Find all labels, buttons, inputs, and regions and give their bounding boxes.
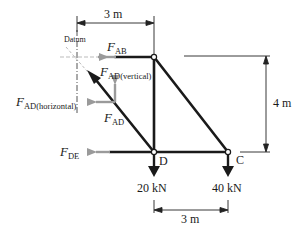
f-ab-sub: AB [115, 46, 127, 56]
f-ab-main: F [107, 39, 115, 54]
datum-label: Datum [64, 36, 86, 44]
node-c-label: C [236, 154, 244, 166]
f-de-main: F [60, 144, 68, 159]
f-ad-vertical-main: F [100, 64, 108, 79]
f-de-sub: DE [68, 151, 79, 161]
f-ab-label: FAB [107, 40, 127, 56]
load-d-label: 20 kN [137, 182, 167, 194]
dim-bottom-label: 3 m [181, 213, 199, 225]
node-d-label: D [159, 155, 168, 167]
f-ad-label: FAD [104, 111, 124, 127]
member-bc [154, 57, 228, 152]
f-ad-vertical-label: FAD(vertical) [100, 65, 151, 81]
f-ad-main: F [104, 110, 112, 125]
load-c-label: 40 kN [212, 182, 242, 194]
f-ad-vertical-sub: AD(vertical) [108, 71, 151, 81]
f-ad-horizontal-main: F [16, 94, 24, 109]
dim-top-label: 3 m [104, 8, 122, 20]
node-d [151, 149, 156, 154]
f-de-label: FDE [60, 145, 79, 161]
node-a [151, 54, 156, 59]
f-ad-horizontal-sub: AD(horizontal) [24, 101, 76, 111]
f-ad-horizontal-label: FAD(horizontal) [16, 95, 76, 111]
node-c [225, 149, 230, 154]
dim-right-label: 4 m [273, 97, 291, 109]
f-ad-sub: AD [112, 117, 124, 127]
truss-diagram [0, 0, 306, 235]
